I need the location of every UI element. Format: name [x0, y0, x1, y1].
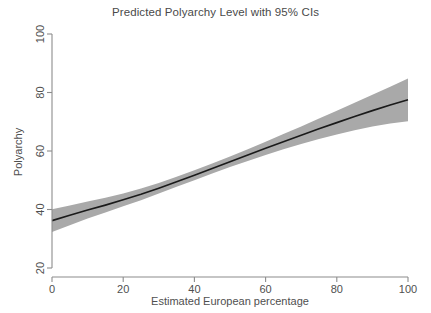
chart-plot-area: 20406080100 020406080100 Polyarchy Estim… — [0, 0, 431, 313]
y-tick-label: 20 — [34, 262, 46, 274]
y-tick-label: 60 — [34, 145, 46, 157]
x-tick-label: 60 — [259, 283, 271, 295]
chart-container: Predicted Polyarchy Level with 95% CIs 2… — [0, 0, 431, 313]
x-axis-title: Estimated European percentage — [151, 295, 309, 307]
x-tick-label: 0 — [49, 283, 55, 295]
y-axis-title: Polyarchy — [12, 127, 24, 176]
x-tick-label: 80 — [331, 283, 343, 295]
y-tick-label: 40 — [34, 203, 46, 215]
y-tick-label: 100 — [34, 25, 46, 43]
x-axis-ticks: 020406080100 — [49, 277, 417, 295]
y-axis-ticks: 20406080100 — [34, 25, 52, 274]
y-tick-label: 80 — [34, 86, 46, 98]
confidence-interval-band — [52, 78, 408, 232]
x-tick-label: 40 — [188, 283, 200, 295]
x-tick-label: 20 — [117, 283, 129, 295]
x-tick-label: 100 — [399, 283, 417, 295]
